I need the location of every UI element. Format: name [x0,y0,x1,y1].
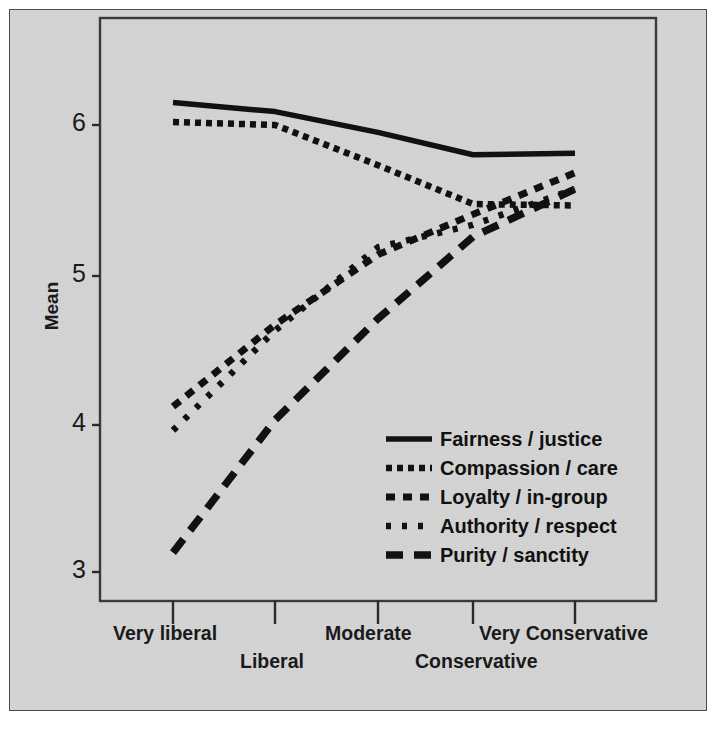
y-tick-label-4: 4 [46,408,86,437]
legend-item-fairness-justice: Fairness / justice [384,424,652,453]
y-tick-label-6: 6 [46,108,86,137]
chart-figure: Mean 6 5 4 3 Very liberal Liberal Modera… [0,0,718,729]
solid-line-key [384,429,440,449]
y-tick-label-5: 5 [46,259,86,288]
x-tick-label-moderate: Moderate [325,622,412,645]
legend-label-fairness-justice: Fairness / justice [440,429,602,449]
x-axis-ticks [173,601,575,624]
series-line-authority-respect [173,189,575,430]
legend-label-loyalty-in-group: Loyalty / in-group [440,487,608,507]
legend-label-compassion-care: Compassion / care [440,458,618,478]
legend-label-authority-respect: Authority / respect [440,516,617,536]
x-tick-label-very-liberal: Very liberal [113,622,217,645]
series-line-compassion-care [173,122,575,206]
series-line-fairness-justice [173,103,575,155]
x-tick-label-conservative: Conservative [415,650,537,673]
x-tick-label-liberal: Liberal [240,650,304,673]
chart-canvas [0,0,718,729]
legend-item-compassion-care: Compassion / care [384,453,652,482]
legend-item-loyalty-in-group: Loyalty / in-group [384,482,652,511]
y-tick-label-3: 3 [46,555,86,584]
fine-dotted-line-key [384,458,440,478]
x-tick-label-very-conservative: Very Conservative [479,622,648,645]
chart-legend: Fairness / justice Compassion / care Loy… [384,424,652,569]
long-dash-line-key [384,545,440,565]
legend-label-purity-sanctity: Purity / sanctity [440,545,589,565]
dotted-line-key [384,516,440,536]
legend-item-authority-respect: Authority / respect [384,511,652,540]
legend-item-purity-sanctity: Purity / sanctity [384,540,652,569]
short-dash-line-key [384,487,440,507]
